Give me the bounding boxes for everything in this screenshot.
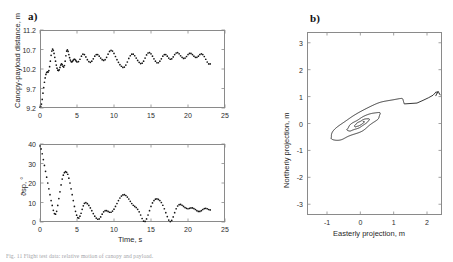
x-axis-title-easterly-projection: Easterly projection, m	[333, 230, 405, 238]
x-tick-1: 1	[384, 219, 404, 226]
x-tick-20: 20	[178, 112, 198, 119]
y-tick-3: 3	[281, 39, 303, 46]
figure-root: a) b) 9.29.710.210.711.2 0510152025 Cano…	[0, 0, 453, 262]
chart-relative-swing-angle: 010203040 0510152025 ϑsp, ° Time, s	[0, 120, 240, 250]
x-axis-title-time: Time, s	[118, 236, 142, 244]
x-tick-0: 0	[350, 219, 370, 226]
y-tick-10: 10	[14, 199, 36, 206]
y-tick-0: 0	[14, 219, 36, 226]
x-tick-10: 10	[104, 112, 124, 119]
x-tick-5: 5	[67, 226, 87, 233]
x-tick-20: 20	[178, 226, 198, 233]
y-tick-40: 40	[14, 141, 36, 148]
y-tick-30: 30	[14, 160, 36, 167]
x-tick-2: 2	[417, 219, 437, 226]
figure-caption: Fig. 11 Flight test data: relative motio…	[6, 253, 446, 262]
y-tick--3: -3	[281, 201, 303, 208]
x-tick-15: 15	[141, 226, 161, 233]
x-tick-25: 25	[215, 226, 235, 233]
x-tick-10: 10	[104, 226, 124, 233]
x-tick-25: 25	[215, 112, 235, 119]
y-axis-title-northerly-projection: Northerly projection, m	[283, 113, 291, 188]
chart-horizontal-projection: -3-2-10123 -1012 Northerly projection, m…	[255, 0, 453, 250]
x-tick-0: 0	[30, 226, 50, 233]
axis-ticks-a-top	[40, 30, 225, 108]
x-tick--1: -1	[317, 219, 337, 226]
y-axis-title-canopy-payload-distance: Canopy-payload distance, m	[14, 13, 22, 108]
axis-ticks-b	[307, 32, 442, 215]
x-tick-15: 15	[141, 112, 161, 119]
x-tick-5: 5	[67, 112, 87, 119]
x-tick-0: 0	[30, 112, 50, 119]
y-tick-1: 1	[281, 93, 303, 100]
y-axis-title-relative-swing-angle: ϑsp, °	[20, 177, 28, 196]
axis-ticks-a-bottom	[40, 144, 225, 222]
y-tick-2: 2	[281, 66, 303, 73]
chart-canopy-payload-distance: 9.29.710.210.711.2 0510152025 Canopy-pay…	[0, 0, 240, 120]
